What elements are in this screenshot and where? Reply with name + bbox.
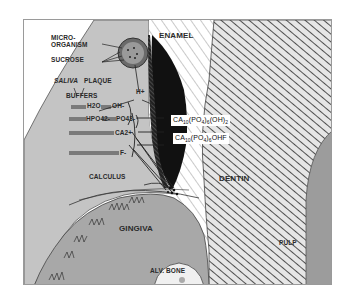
label-oh-minus: OH- (112, 103, 124, 110)
formula-hydroxyapatite: CA10(PO4)6(OH)2 (171, 115, 230, 126)
formula-ca: CA (173, 116, 183, 123)
label-hpo4: HPO42- (86, 116, 110, 123)
label-alv-bone: ALV. BONE (150, 268, 185, 275)
label-gingiva: GINGIVA (119, 225, 153, 233)
label-h-plus: H+ (136, 89, 145, 96)
label-enamel: ENAMEL (159, 32, 193, 40)
label-microorganism-line2: ORGANISM (51, 42, 88, 49)
label-h2o: H2O (87, 103, 101, 110)
label-sucrose: SUCROSE (51, 57, 84, 64)
label-microorganism: MICRO- ORGANISM (51, 35, 88, 48)
label-pulp: PULP (279, 240, 297, 247)
diagram-frame: MICRO- ORGANISM SUCROSE SALIVA PLAQUE BU… (23, 19, 332, 285)
label-dentin: DENTIN (219, 175, 249, 183)
formula-oh-sub: 2 (225, 119, 228, 125)
diagram-stage: MICRO- ORGANISM SUCROSE SALIVA PLAQUE BU… (0, 0, 346, 296)
formula-po4: (PO (189, 116, 202, 123)
label-f-minus: F- (120, 150, 126, 157)
label-calculus: CALCULUS (89, 174, 126, 181)
label-buffers: BUFFERS (66, 93, 97, 100)
formula-po4: (PO (191, 134, 204, 141)
label-plaque: PLAQUE (84, 78, 112, 85)
formula-oh: (OH) (210, 116, 226, 123)
label-saliva: SALIVA (54, 78, 78, 85)
formula-ca: CA (175, 134, 185, 141)
label-po4: PO43- (116, 116, 135, 123)
label-ca2plus: CA2+ (115, 130, 132, 137)
formula-ohf: OHF (212, 134, 227, 141)
formula-fluorhydroxyapatite: CA10(PO4)6OHF (173, 133, 229, 144)
